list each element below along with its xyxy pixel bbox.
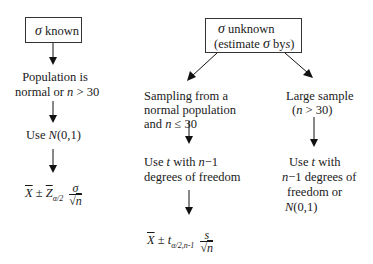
x-bar: X [147, 233, 155, 247]
degrees-of: −1 degrees of [288, 170, 356, 184]
use-label: Use [289, 155, 308, 169]
dist-line-3: freedom or [282, 185, 356, 200]
box-label-known: known [45, 24, 79, 38]
z-subscript: α/2 [53, 194, 63, 203]
dist-line-1: Use t with n−1 [144, 155, 240, 170]
left-condition: Population is [22, 70, 88, 85]
left-formula: X ± Zα/2 σ √n [25, 179, 82, 213]
dist-line-2: degrees of freedom [144, 170, 240, 185]
n-var: n [296, 103, 302, 117]
condition-line-3: and n ≤ 30 [144, 117, 236, 132]
den-var: n [76, 194, 82, 208]
small-sample-formula: X ± tα/2,n-1 s √n [147, 226, 213, 260]
fraction: σ √n [69, 182, 82, 207]
estimate-label: (estimate [214, 37, 260, 51]
left-condition-line-2: normal or n > 30 [15, 85, 99, 100]
use-label: Use [26, 128, 45, 142]
den-var: n [207, 241, 213, 255]
close-paren: ) [290, 37, 294, 51]
minus-one: −1 [205, 155, 218, 169]
sigma-symbol-2: σ [263, 36, 270, 51]
x-bar: X [25, 186, 33, 200]
large-sample-condition: Large sample (n > 30) [286, 89, 353, 118]
condition-var: n [67, 85, 73, 99]
gt-30: > 30) [306, 103, 333, 117]
le-30: ≤ 30 [175, 117, 198, 131]
condition-line-2: normal population [144, 103, 236, 118]
dist-line-1: Use t with [282, 155, 356, 170]
with-label: with [318, 155, 340, 169]
small-sample-distribution: Use t with n−1 degrees of freedom [144, 155, 240, 185]
use-label: Use [144, 155, 163, 169]
condition-line-2: (n > 30) [286, 103, 353, 118]
sqrt-icon: √ [69, 194, 76, 208]
left-distribution: Use N(0,1) [26, 128, 81, 143]
t-var: t [312, 155, 315, 169]
condition-line-1: Population is [22, 70, 88, 85]
sigma-symbol: σ [35, 23, 42, 38]
sigma-known-box: σ known [25, 17, 82, 43]
box-label-unknown: unknown [228, 22, 275, 36]
normal-dist-symbol: N [49, 128, 57, 142]
t-subscript: α/2,n-1 [171, 241, 194, 250]
dist-line-2: n−1 degrees of [282, 170, 356, 185]
by-label: by [273, 37, 286, 51]
plus-minus: ± [158, 233, 165, 247]
large-sample-distribution: Use t with n−1 degrees of freedom or N(0… [282, 155, 356, 215]
fraction-denominator: √n [69, 195, 82, 207]
condition-line-1: Sampling from a [144, 89, 236, 104]
t-var: t [167, 155, 170, 169]
small-sample-condition: Sampling from a normal population and n … [144, 89, 236, 132]
and-label: and [144, 117, 162, 131]
with-label: with [173, 155, 195, 169]
condition-line-1: Large sample [286, 89, 353, 104]
dist-args: (0,1) [293, 200, 317, 214]
z-symbol: Z [46, 186, 53, 200]
fraction: s √n [200, 229, 213, 254]
dist-line-4: N(0,1) [282, 200, 356, 215]
plus-minus: ± [36, 186, 43, 200]
fraction-denominator: √n [200, 242, 213, 254]
sigma-unknown-box: σ unknown (estimate σ bys) [205, 18, 302, 53]
n-var: n [165, 117, 171, 131]
condition-suffix: > 30 [76, 85, 99, 99]
sigma-symbol: σ [218, 21, 225, 36]
condition-prefix: normal or [15, 85, 64, 99]
dist-args: (0,1) [57, 128, 81, 142]
